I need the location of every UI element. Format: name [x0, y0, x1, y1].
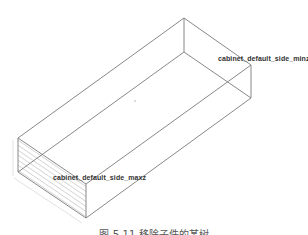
hatch-face-maxz — [0, 128, 100, 235]
label-side-minz: cabinet_default_side_minz — [218, 55, 308, 62]
label-side-maxz: cabinet_default_side_maxz — [53, 174, 146, 181]
cabinet-diagram: cabinet_default_side_minz cabinet_defaul… — [0, 0, 308, 235]
box-wireframe — [0, 0, 308, 235]
center-point — [134, 100, 135, 101]
figure-caption: 图 5-11 移除子件的某树 — [0, 226, 308, 235]
box-edges — [18, 18, 251, 218]
